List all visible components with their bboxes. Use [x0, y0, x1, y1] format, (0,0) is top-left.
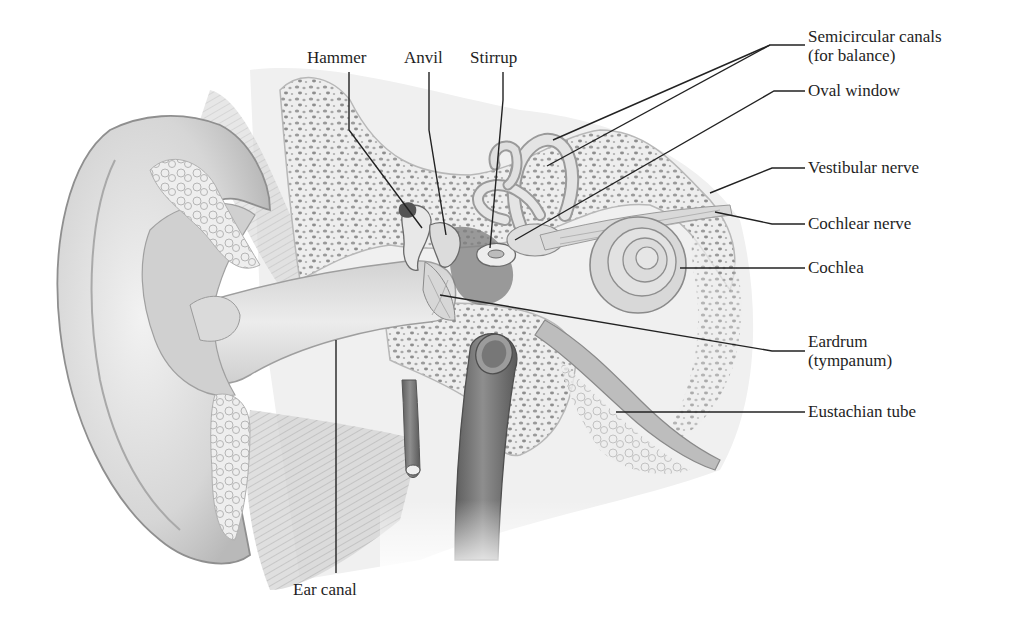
ear-anatomy-diagram: Hammer Anvil Stirrup Semicircular canals… — [0, 0, 1032, 630]
label-oval-window: Oval window — [808, 81, 900, 100]
label-semicircular-canals: Semicircular canals (for balance) — [808, 27, 942, 65]
leader-semicircular-2 — [547, 45, 770, 166]
label-semicircular-canals-line1: Semicircular canals — [808, 27, 942, 46]
label-vestibular-nerve: Vestibular nerve — [808, 158, 919, 177]
label-eardrum-line2: (tympanum) — [808, 351, 892, 370]
cochlea-shape — [590, 217, 686, 313]
label-eustachian-tube: Eustachian tube — [808, 402, 916, 421]
label-hammer: Hammer — [307, 48, 366, 67]
label-cochlear-nerve: Cochlear nerve — [808, 214, 911, 233]
leader-vestibular-nerve — [710, 168, 805, 193]
label-stirrup: Stirrup — [470, 48, 517, 67]
label-ear-canal: Ear canal — [293, 580, 357, 599]
label-eardrum: Eardrum (tympanum) — [808, 332, 892, 370]
label-cochlea: Cochlea — [808, 258, 864, 277]
label-semicircular-canals-line2: (for balance) — [808, 46, 942, 65]
label-anvil: Anvil — [404, 48, 443, 67]
label-eardrum-line1: Eardrum — [808, 332, 892, 351]
